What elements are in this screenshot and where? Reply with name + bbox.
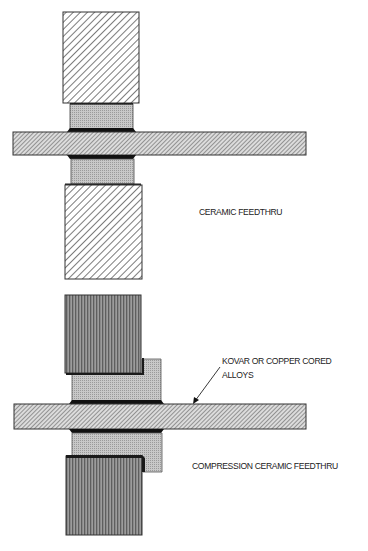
compression-pin-bar — [14, 404, 306, 429]
lower-compression-block — [66, 456, 142, 535]
kovar-annotation-line1: KOVAR OR COPPER CORED — [222, 357, 331, 366]
upper-braze-joint — [67, 128, 136, 132]
lower-ceramic-ring — [71, 159, 134, 184]
kovar-arrow — [193, 367, 220, 404]
arrow-line — [195, 367, 220, 401]
lower-braze-joint — [67, 155, 136, 159]
ceramic-feedthru-figure — [13, 12, 306, 279]
upper-compression-braze — [69, 400, 164, 404]
arrow-head-icon — [193, 397, 199, 404]
upper-metal-block — [63, 12, 139, 103]
upper-ceramic-ring — [70, 104, 133, 130]
lower-metal-block — [65, 185, 142, 279]
upper-braze-top — [70, 103, 133, 105]
compression-feedthru-figure — [14, 295, 306, 535]
ceramic-feedthru-caption: CERAMIC FEEDTHRU — [199, 208, 282, 217]
lower-compression-braze — [69, 429, 164, 433]
upper-compression-block — [65, 295, 141, 373]
kovar-annotation-line2: ALLOYS — [222, 371, 253, 380]
compression-feedthru-caption: COMPRESSION CERAMIC FEEDTHRU — [192, 462, 338, 471]
pin-bar — [13, 132, 306, 155]
